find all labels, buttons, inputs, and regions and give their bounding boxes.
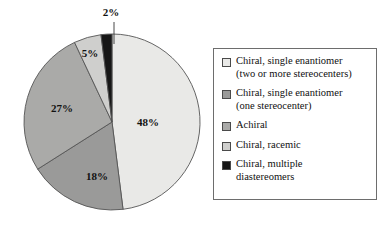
legend-swatch-chiral-single-one <box>222 90 231 99</box>
legend-item[interactable]: Chiral, single enantiomer (two or more s… <box>222 55 372 80</box>
chart-legend: Chiral, single enantiomer (two or more s… <box>213 48 377 200</box>
pie-label-achiral: 27% <box>51 102 73 114</box>
legend-swatch-chiral-racemic <box>222 142 231 151</box>
legend-item-label: Chiral, multiple diastereomers <box>236 158 303 183</box>
pie-slice-group <box>24 34 200 210</box>
legend-item-label: Achiral <box>236 119 268 132</box>
pie-label-chiral-racemic: 5% <box>82 47 99 59</box>
pie-chart-region: 48%18%27%5%2% <box>0 0 212 225</box>
legend-item-label: Chiral, single enantiomer (one stereocen… <box>236 87 342 112</box>
pie-label-chiral-single-enantiomer-one: 18% <box>86 170 108 182</box>
legend-item[interactable]: Chiral, racemic <box>222 139 372 152</box>
pie-label-chiral-single-enantiomer-multi: 48% <box>137 116 159 128</box>
pie-label-chiral-multiple-diastereomers: 2% <box>103 6 120 18</box>
legend-item[interactable]: Chiral, single enantiomer (one stereocen… <box>222 87 372 112</box>
legend-item[interactable]: Achiral <box>222 119 372 132</box>
legend-swatch-chiral-multiple <box>222 161 231 170</box>
legend-item-list: Chiral, single enantiomer (two or more s… <box>222 55 372 183</box>
pie-chart-svg: 48%18%27%5%2% <box>0 0 212 225</box>
legend-item[interactable]: Chiral, multiple diastereomers <box>222 158 372 183</box>
chart-canvas: 48%18%27%5%2% Chiral, single enantiomer … <box>0 0 386 225</box>
legend-item-label: Chiral, single enantiomer (two or more s… <box>236 55 352 80</box>
legend-swatch-chiral-single-multi <box>222 58 231 67</box>
legend-swatch-achiral <box>222 122 231 131</box>
legend-item-label: Chiral, racemic <box>236 139 301 152</box>
